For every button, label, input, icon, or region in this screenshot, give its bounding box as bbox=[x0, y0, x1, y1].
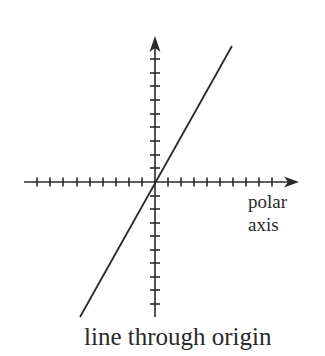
polar-axis-label-line1: polar bbox=[248, 191, 288, 212]
vertical-axis bbox=[150, 44, 160, 317]
polar-line-diagram: polar axis line through origin bbox=[0, 0, 325, 356]
polar-axis-label-line2: axis bbox=[248, 214, 279, 235]
diagram-caption: line through origin bbox=[84, 323, 272, 350]
